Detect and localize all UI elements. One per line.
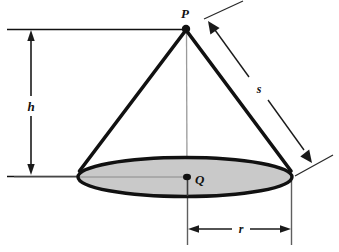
axis-line (187, 29, 188, 176)
slant-dimension-shaft-upper (215, 30, 249, 77)
cone-diagram-canvas: P Q h s r (0, 0, 339, 252)
slant-arrowhead-top (208, 21, 220, 35)
center-label: Q (195, 172, 205, 187)
height-label: h (27, 99, 34, 114)
cone-right-edge (186, 30, 291, 171)
slant-bottom-witness-tick (295, 155, 333, 176)
slant-arrowhead-bottom (300, 150, 312, 164)
slant-dimension-shaft-lower (268, 100, 304, 150)
cone-left-edge (80, 30, 187, 171)
radius-arrowhead-left (188, 225, 199, 232)
center-point-marker (183, 174, 191, 180)
radius-label: r (239, 222, 244, 236)
slant-label: s (256, 82, 262, 96)
apex-point-marker (182, 25, 190, 33)
radius-arrowhead-right (280, 225, 291, 232)
cone-figure: P Q h s r (0, 0, 339, 252)
height-arrowhead-top (27, 30, 34, 41)
apex-label: P (181, 6, 190, 21)
slant-top-witness-tick (204, 1, 243, 19)
height-arrowhead-bottom (27, 164, 34, 175)
